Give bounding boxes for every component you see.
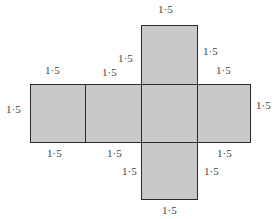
edge-label-left-end-bottom: 1·5 bbox=[47, 148, 62, 159]
face-bottom bbox=[141, 142, 198, 200]
edge-label-left-bottom: 1·5 bbox=[107, 148, 122, 159]
edge-label-left-end-top: 1·5 bbox=[45, 65, 60, 76]
edge-label-bottom: 1·5 bbox=[162, 205, 177, 216]
edge-label-top-left: 1·5 bbox=[118, 53, 133, 64]
face-left-end bbox=[30, 84, 86, 143]
face-right bbox=[197, 84, 251, 143]
edge-label-right-bottom: 1·5 bbox=[217, 148, 232, 159]
face-top bbox=[141, 25, 198, 85]
edge-label-right-top: 1·5 bbox=[216, 65, 231, 76]
edge-label-bottom-left: 1·5 bbox=[122, 166, 137, 177]
face-center bbox=[141, 84, 198, 143]
edge-label-top-right: 1·5 bbox=[203, 46, 218, 57]
cube-net-diagram: 1·5 1·5 1·5 1·5 1·5 1·5 1·5 1·5 1·5 1·5 … bbox=[0, 0, 280, 219]
edge-label-top: 1·5 bbox=[158, 4, 173, 15]
edge-label-bottom-right: 1·5 bbox=[204, 166, 219, 177]
edge-label-right-side: 1·5 bbox=[256, 100, 271, 111]
edge-label-left-top: 1·5 bbox=[102, 67, 117, 78]
face-left bbox=[85, 84, 142, 143]
edge-label-left-side: 1·5 bbox=[6, 104, 21, 115]
